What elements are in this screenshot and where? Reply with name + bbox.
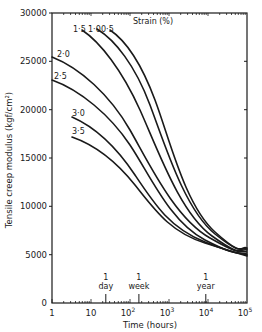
x-axis-title: Time (hours): [122, 320, 177, 330]
plot-frame: [52, 13, 247, 303]
annotation-1-year-label: year: [197, 282, 216, 291]
y-tick-30000: 30000: [20, 8, 47, 18]
x-tick-100: 102: [121, 306, 136, 318]
time-annotations: 1 day 1 week 1 year: [98, 273, 215, 303]
annotation-1-year-num: 1: [203, 273, 208, 282]
strain-label-3-0: 3·0: [72, 109, 85, 118]
annotation-1-day-label: day: [98, 282, 113, 291]
curve-strain-2-5: [52, 80, 247, 254]
curve-strain-0-5: [110, 30, 247, 249]
strain-label-3-5: 3·5: [72, 127, 85, 136]
legend-title: Strain (%): [133, 17, 173, 26]
x-tick-1: 1: [49, 308, 54, 318]
strain-label-2-0: 2·0: [57, 50, 70, 59]
y-tick-5000: 5000: [25, 250, 47, 260]
strain-label-1-0: 1·0: [88, 25, 101, 34]
y-tick-15000: 15000: [20, 153, 47, 163]
strain-label-2-5: 2·5: [54, 72, 67, 81]
x-tick-10000: 104: [199, 306, 214, 318]
x-axis-ticks: [52, 13, 245, 303]
creep-modulus-chart: 30000 25000 20000 15000 10000 5000 0 1 1…: [0, 0, 262, 332]
x-axis-labels: 1 10 102 103 104 105: [49, 306, 252, 318]
strain-label-1-5: 1·5: [73, 25, 86, 34]
curve-strain-3-0: [72, 117, 247, 255]
y-tick-10000: 10000: [20, 201, 47, 211]
x-tick-1000: 103: [160, 306, 175, 318]
curves: [52, 29, 247, 256]
annotation-1-week-num: 1: [136, 273, 141, 282]
y-axis-labels: 30000 25000 20000 15000 10000 5000 0: [20, 8, 47, 308]
y-tick-25000: 25000: [20, 56, 47, 66]
strain-labels: 1·5 1·0 0·5 2·0 2·5 3·0 3·5: [54, 25, 114, 136]
x-tick-100000: 105: [238, 306, 253, 318]
y-axis-title: Tensile creep modulus (kgf/cm²): [4, 92, 14, 229]
annotation-1-day-num: 1: [103, 273, 108, 282]
curve-strain-1-0: [97, 29, 247, 249]
strain-label-0-5: 0·5: [101, 25, 114, 34]
y-tick-0: 0: [42, 298, 47, 308]
y-tick-20000: 20000: [20, 105, 47, 115]
annotation-1-week-label: week: [128, 282, 149, 291]
x-tick-10: 10: [86, 308, 97, 318]
